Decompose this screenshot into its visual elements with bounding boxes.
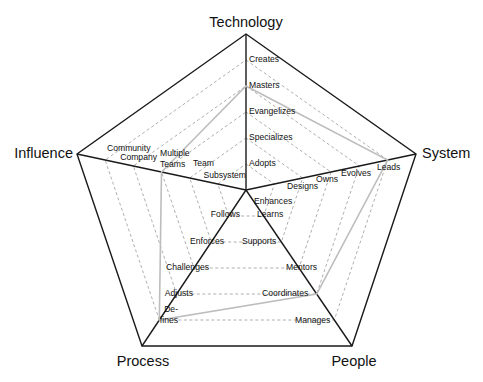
level-label: Enhances — [254, 196, 292, 206]
level-label: Manages — [295, 315, 330, 325]
level-label: Follows — [211, 209, 240, 219]
level-label: Company — [120, 152, 157, 162]
axis-title-system: System — [422, 145, 470, 161]
level-label: Subsystem — [203, 170, 246, 180]
level-label: Enforces — [190, 236, 224, 246]
level-label: Community — [107, 143, 151, 153]
radar-diagram: TechnologySystemPeopleProcessInfluence A… — [0, 0, 483, 382]
level-label: Challenges — [166, 262, 209, 272]
level-label: MultipleTeams — [160, 148, 190, 169]
level-label: Coordinates — [262, 288, 308, 298]
axis-title-process: Process — [117, 353, 169, 369]
level-label: Designs — [287, 181, 318, 191]
level-label: Adopts — [249, 158, 276, 168]
axis-titles: TechnologySystemPeopleProcessInfluence — [14, 14, 470, 369]
level-label: Owns — [316, 174, 338, 184]
level-label: Adjusts — [165, 288, 193, 298]
axis-title-influence: Influence — [14, 145, 73, 161]
axis-lines — [77, 34, 416, 346]
level-label: Supports — [242, 236, 276, 246]
level-label: Mentors — [286, 262, 317, 272]
level-label: Evolves — [341, 168, 371, 178]
level-label: Specializes — [249, 132, 292, 142]
level-label: Evangelizes — [249, 106, 295, 116]
level-label: Leads — [377, 162, 400, 172]
level-label: Masters — [249, 80, 280, 90]
level-label: De-fines — [160, 304, 178, 325]
axis-title-technology: Technology — [209, 14, 283, 30]
axis-title-people: People — [331, 353, 376, 369]
level-labels: AdoptsSpecializesEvangelizesMastersCreat… — [107, 54, 400, 325]
level-label: Learns — [257, 209, 283, 219]
level-label: Creates — [249, 54, 279, 64]
level-label: Team — [193, 158, 214, 168]
